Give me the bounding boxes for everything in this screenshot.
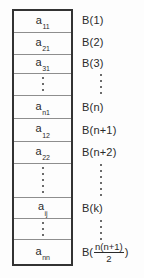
- array-column: a11 a21 a31 an1 a12 a22 aij ann: [12, 9, 73, 266]
- index-label-ellipsis-row: [80, 163, 144, 197]
- index-label-ellipsis-row: [80, 219, 144, 240]
- cell-label: a31: [36, 57, 50, 70]
- index-label-row: B(3): [80, 53, 144, 72]
- cell-label: a12: [36, 123, 50, 136]
- fraction: n(n+1) 2: [94, 241, 124, 264]
- index-label-column: B(1) B(2) B(3) B(n) B(n+1) B(n+2) B(k): [80, 9, 144, 266]
- array-cell: a12: [14, 119, 71, 142]
- index-label-row: B(2): [80, 31, 144, 53]
- fraction-label: B( n(n+1) 2 ): [82, 241, 128, 264]
- diagram-canvas: a11 a21 a31 an1 a12 a22 aij ann: [0, 0, 144, 278]
- fraction-suffix: ): [125, 246, 129, 258]
- index-label-row: B(1): [80, 9, 144, 31]
- array-cell: an1: [14, 96, 71, 119]
- fraction-numerator: n(n+1): [94, 241, 124, 253]
- index-label: B(n+2): [82, 146, 117, 158]
- cell-label: aij: [38, 201, 47, 214]
- ellipsis-dots: [42, 74, 44, 96]
- array-cell: a22: [14, 142, 71, 164]
- index-label: B(1): [82, 14, 104, 26]
- cell-label: ann: [36, 246, 50, 259]
- ellipsis-dots: [100, 163, 102, 197]
- array-cell: a11: [14, 11, 71, 33]
- index-label-row: B(n+1): [80, 118, 144, 141]
- array-cell: ann: [14, 240, 71, 264]
- array-cell-ellipsis: [14, 219, 71, 240]
- array-cell-ellipsis: [14, 164, 71, 198]
- index-label-row: B(n+2): [80, 141, 144, 163]
- fraction-denominator: 2: [106, 253, 111, 264]
- index-label: B(n): [82, 101, 104, 113]
- index-label-row: B( n(n+1) 2 ): [80, 240, 144, 264]
- index-label-row: B(k): [80, 197, 144, 219]
- index-label-row: B(n): [80, 95, 144, 118]
- ellipsis-dots: [100, 72, 102, 95]
- cell-label: a22: [36, 146, 50, 159]
- fraction-prefix: B(: [82, 246, 93, 258]
- cell-label: an1: [36, 101, 50, 114]
- index-label-ellipsis-row: [80, 72, 144, 95]
- array-cell: aij: [14, 198, 71, 220]
- array-cell: a21: [14, 33, 71, 55]
- index-label: B(2): [82, 36, 104, 48]
- index-label: B(n+1): [82, 124, 117, 136]
- array-cell-ellipsis: [14, 74, 71, 97]
- ellipsis-dots: [100, 219, 102, 240]
- cell-label: a11: [36, 15, 49, 28]
- ellipsis-dots: [42, 164, 44, 197]
- index-label: B(k): [82, 202, 103, 214]
- ellipsis-dots: [42, 219, 44, 239]
- array-cell: a31: [14, 55, 71, 74]
- index-label: B(3): [82, 57, 104, 69]
- cell-label: a21: [36, 37, 50, 50]
